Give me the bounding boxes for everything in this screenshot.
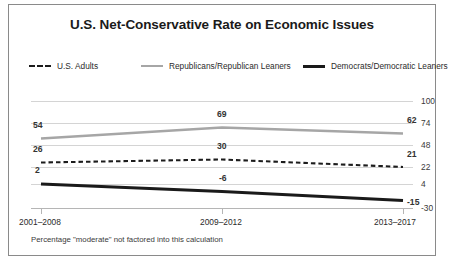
data-label-democrats-2: -15 <box>407 197 419 207</box>
gray-line-icon <box>141 65 163 67</box>
legend-item-democrats: Democrats/Democratic Leaners <box>303 61 448 71</box>
legend-label-democrats: Democrats/Democratic Leaners <box>331 61 448 71</box>
xtick-label-2013-2017: 2013–2017 <box>374 217 416 227</box>
data-label-us-adults-2: 21 <box>407 149 417 159</box>
series-line-republicans <box>41 128 403 139</box>
data-label-republicans-2: 62 <box>407 115 417 125</box>
plot-area: 54 69 62 26 30 21 2 -6 -15 100 74 48 22 … <box>31 101 413 209</box>
series-line-us-adults <box>41 160 403 168</box>
data-label-us-adults-0: 26 <box>33 144 43 154</box>
data-label-democrats-0: 2 <box>35 165 40 175</box>
legend-label-us-adults: U.S. Adults <box>57 61 98 71</box>
data-label-republicans-1: 69 <box>217 109 227 119</box>
data-label-republicans-0: 54 <box>33 120 43 130</box>
page-title: U.S. Net-Conservative Rate on Economic I… <box>9 17 435 32</box>
ytick-label-m30: -30 <box>421 203 433 213</box>
chart-legend: U.S. Adults Republicans/Republican Leane… <box>9 61 435 79</box>
series-line-democrats <box>41 184 403 201</box>
data-label-democrats-1: -6 <box>219 173 227 183</box>
dashed-line-icon <box>29 65 51 67</box>
black-line-icon <box>303 65 325 68</box>
ytick-label-22: 22 <box>421 162 430 172</box>
legend-label-republicans: Republicans/Republican Leaners <box>169 61 291 71</box>
ytick-label-100: 100 <box>421 96 435 106</box>
ytick-label-4: 4 <box>421 179 426 189</box>
ytick-label-74: 74 <box>421 118 430 128</box>
xtick-label-2009-2012: 2009–2012 <box>200 217 242 227</box>
xtick-label-2001-2008: 2001–2008 <box>19 217 61 227</box>
ytick-label-48: 48 <box>421 140 430 150</box>
chart-card: U.S. Net-Conservative Rate on Economic I… <box>8 4 436 256</box>
data-label-us-adults-1: 30 <box>217 141 227 151</box>
legend-item-us-adults: U.S. Adults <box>29 61 98 71</box>
legend-item-republicans: Republicans/Republican Leaners <box>141 61 291 71</box>
chart-footnote: Percentage "moderate" not factored into … <box>31 235 223 244</box>
